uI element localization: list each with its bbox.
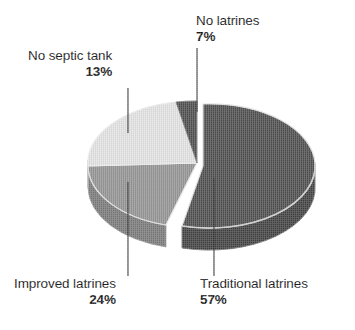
callout-traditional-latrines-label: Traditional latrines [200,276,308,292]
callout-no-septic-tank-value: 13% [28,64,112,80]
pie-chart-figure: No latrines 7% No septic tank 13% Improv… [0,0,355,330]
callout-no-septic-tank-label: No septic tank [28,48,112,64]
callout-no-latrines: No latrines 7% [196,13,259,45]
callout-no-latrines-value: 7% [196,29,259,45]
callout-traditional-latrines-value: 57% [200,292,308,308]
callout-improved-latrines-value: 24% [14,292,116,308]
callout-traditional-latrines: Traditional latrines 57% [200,276,308,308]
callout-no-latrines-label: No latrines [196,13,259,29]
callout-improved-latrines: Improved latrines 24% [14,276,116,308]
callout-no-septic-tank: No septic tank 13% [28,48,112,80]
callout-improved-latrines-label: Improved latrines [14,276,116,292]
